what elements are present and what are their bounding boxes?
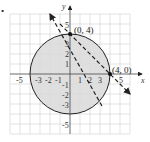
svg-text:5: 5 [119, 76, 123, 85]
svg-text:-2: -2 [45, 76, 52, 85]
svg-text:-5: -5 [16, 76, 23, 85]
graph: • x y -5 -3 -2 -1 1 2 3 5 5 3 2 1 -1 [0, 0, 150, 142]
point-label-0-4: (0, 4) [74, 25, 94, 35]
x-axis-label: x [140, 76, 145, 85]
svg-text:-2: -2 [62, 91, 69, 100]
svg-text:3: 3 [98, 76, 102, 85]
svg-text:-5: -5 [62, 121, 69, 130]
svg-text:-1: -1 [62, 81, 69, 90]
bullet: • [1, 6, 4, 16]
svg-text:5: 5 [65, 21, 69, 30]
svg-text:-3: -3 [62, 101, 69, 110]
svg-text:2: 2 [88, 76, 92, 85]
point-0-4 [68, 32, 72, 36]
y-axis-label: y [61, 2, 66, 11]
svg-text:-3: -3 [35, 76, 42, 85]
point-label-4-0: (4, 0) [112, 65, 132, 75]
svg-text:2: 2 [65, 50, 69, 59]
svg-text:1: 1 [65, 60, 69, 69]
svg-text:-1: -1 [55, 76, 62, 85]
svg-text:1: 1 [78, 76, 82, 85]
